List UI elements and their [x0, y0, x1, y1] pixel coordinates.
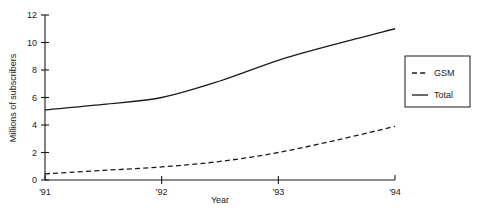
- series-line-gsm: [45, 126, 395, 173]
- legend-label-gsm: GSM: [434, 68, 455, 78]
- x-tick-label: '93: [272, 187, 284, 197]
- y-tick-label: 4: [32, 120, 37, 130]
- y-tick-label: 8: [32, 65, 37, 75]
- y-tick-label: 0: [32, 175, 37, 185]
- y-axis: 024681012 Millions of subscribers: [8, 10, 49, 185]
- x-axis: '91'92'93'94 Year: [39, 175, 401, 205]
- y-axis-tick-labels: 024681012: [27, 10, 37, 185]
- y-axis-title: Millions of subscribers: [8, 53, 18, 142]
- series-line-total: [45, 29, 395, 110]
- x-tick-label: '92: [156, 187, 168, 197]
- x-axis-title: Year: [211, 195, 229, 205]
- y-tick-label: 2: [32, 148, 37, 158]
- legend-label-total: Total: [434, 90, 453, 100]
- y-tick-label: 12: [27, 10, 37, 20]
- x-tick-label: '94: [389, 187, 401, 197]
- y-tick-label: 6: [32, 93, 37, 103]
- chart-figure: 024681012 Millions of subscribers '91'92…: [0, 0, 487, 215]
- y-tick-label: 10: [27, 38, 37, 48]
- x-tick-label: '91: [39, 187, 51, 197]
- line-chart: 024681012 Millions of subscribers '91'92…: [0, 0, 487, 215]
- legend: GSMTotal: [405, 56, 470, 107]
- data-series-group: [45, 29, 395, 174]
